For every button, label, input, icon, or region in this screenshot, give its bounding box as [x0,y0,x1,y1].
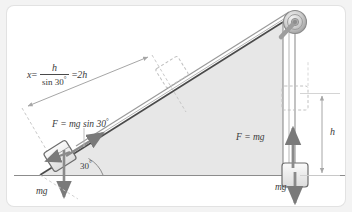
label-weight-left: mg [36,187,48,197]
label-x-fraction: h sin 30° [40,63,69,87]
label-x-result: 2h [77,70,87,80]
label-angle: 30° [80,160,92,171]
degree-sign: ° [89,159,92,167]
label-x-equation: x = h sin 30° = 2h [27,63,87,87]
label-force-incline-text: F = mg sin 30 [52,119,106,129]
label-weight-right: mg [275,183,287,193]
label-x-numerator: h [49,63,60,74]
label-height: h [330,127,335,137]
label-force-hanging: F = mg [236,133,265,143]
physics-diagram [0,0,352,212]
degree-sign: ° [106,117,109,125]
figure-root: x = h sin 30° = 2h F = mg sin 30° 30° mg… [0,0,352,212]
label-x-denominator: sin 30° [40,75,69,87]
ghost-block-on-incline [155,56,189,88]
label-x-eq: = [31,70,37,80]
label-angle-text: 30 [80,161,89,171]
label-force-incline: F = mg sin 30° [52,118,109,130]
